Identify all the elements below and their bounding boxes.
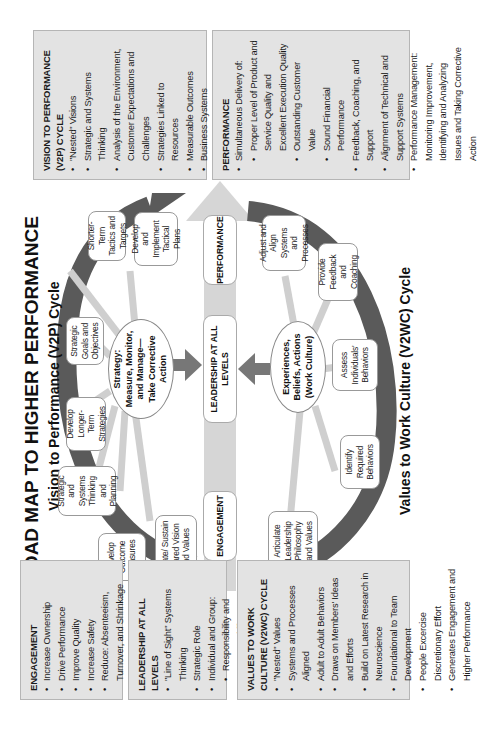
performance-item: Feedback, Coaching, and Support (349, 39, 378, 171)
leadership-item: Strategic Role (190, 569, 205, 691)
node-assess-individuals-behaviors: Assess Individuals' Behaviors (332, 339, 378, 391)
v2p-center-strategy: Strategy: Measure, Monitor, and Manage—T… (108, 319, 174, 419)
v2p-item: Measurable Outcomes (183, 39, 198, 171)
performance-item: Alignment of Technical and Support Syste… (378, 39, 407, 171)
performance-box-heading: PERFORMANCE (219, 39, 232, 171)
v2wc-item: Generates Engagement and Higher Performa… (445, 569, 474, 691)
node-develop-implement-tactical-plans: Develop and Implement Tactical Plans (134, 212, 178, 266)
v2p-box: VISION TO PERFORMANCE (V2P) CYCLE "Neste… (33, 30, 207, 180)
v2wc-item: "Nested" Values (270, 569, 285, 691)
v2wc-item: Draws on Members' Ideas and Efforts (328, 569, 357, 691)
performance-item: Simultaneous Delivery of: (232, 39, 247, 171)
node-develop-longer-term-strategies: Develop Longer-Term Strategies (66, 397, 106, 451)
leadership-box: LEADERSHIP AT ALL LEVELS "Line of Sight"… (128, 560, 227, 700)
v2p-item: Strategic and Systems Thinking (81, 39, 110, 171)
v2wc-item: Build on Latest Research in Neuroscience (358, 569, 387, 691)
engagement-item: Increase Ownership (40, 569, 55, 691)
engagement-box: ENGAGEMENT Increase Ownership Drive Perf… (20, 560, 123, 700)
v2wc-item: Foundational to Team Development (387, 569, 416, 691)
stage-engagement: ENGAGEMENT (203, 491, 237, 561)
engagement-item: Increase Safety (84, 569, 99, 691)
stage-performance: PERFORMANCE (203, 215, 237, 285)
v2wc-box: VALUES TO WORK CULTURE (V2WC) CYCLE "Nes… (237, 560, 410, 700)
v2wc-item: People Excercise Discretionary Effort (416, 569, 445, 691)
v2p-item: Analysis of the Environment, Customer Ex… (110, 39, 154, 171)
v2p-box-heading: VISION TO PERFORMANCE (V2P) CYCLE (40, 39, 66, 171)
leadership-box-heading: LEADERSHIP AT ALL LEVELS (135, 569, 161, 691)
page-title: ROAD MAP TO HIGHER PERFORMANCE (20, 200, 44, 600)
v2p-item: Strategies Linked to Resources (154, 39, 183, 171)
stage-leadership: LEADERSHIP AT ALL LEVELS (203, 315, 237, 423)
node-shorter-term-tactics: Shorter-Term Tactics and Targets (88, 211, 126, 261)
engagement-item: Improve Quality (69, 569, 84, 691)
performance-box: PERFORMANCE Simultaneous Delivery of: Pr… (212, 30, 410, 180)
engagement-item: Reduce: Absenteeism, Turnover, and Shrin… (98, 569, 127, 691)
v2wc-item: Adult to Adult Behaviors (314, 569, 329, 691)
v2wc-center-work-culture: Experiences, Beliefs, Actions (Work Cult… (270, 321, 326, 413)
engagement-item: Drive Performance (55, 569, 70, 691)
node-provide-feedback-coaching: Provide Feedback and Coaching (318, 243, 358, 301)
v2wc-box-heading: VALUES TO WORK CULTURE (V2WC) CYCLE (244, 569, 270, 691)
v2wc-item: Systems and Processes Aligned (285, 569, 314, 691)
performance-item: Performance Management: Monitoring Impro… (407, 39, 480, 171)
performance-subitem: Outstanding Customer Value (290, 39, 319, 171)
node-adjust-align-systems: Adjust and Align Systems and Processes (262, 215, 306, 271)
node-strategic-systems-thinking: Strategic and Systems Thinking and Plann… (58, 466, 116, 516)
leadership-item: "Line of Sight" Systems Thinking (161, 569, 190, 691)
engagement-box-heading: ENGAGEMENT (27, 569, 40, 691)
v2p-item: "Nested" Visions (66, 39, 81, 171)
node-identify-required-behaviors: Identify Required Behaviors (340, 435, 380, 489)
leadership-item: Individual and Group: (205, 569, 220, 691)
node-strategic-goals-objectives: Strategic Goals and Objectives (66, 317, 104, 365)
performance-subitem: Sound Financial Performance (320, 39, 349, 171)
performance-subitem: Proper Level of Product and Service Qual… (247, 39, 291, 171)
v2p-item: Business Systems (197, 39, 212, 171)
v2wc-cycle-heading: Values to Work Culture (V2WC) Cycle (397, 221, 414, 561)
